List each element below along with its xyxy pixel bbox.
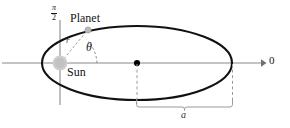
semi-major-axis-label: a xyxy=(181,110,186,120)
orbit-diagram: π 2 Planet Sun θ r 0 a xyxy=(0,0,290,128)
sun-core-icon xyxy=(55,58,65,68)
angle-zero-label: 0 xyxy=(269,55,275,66)
sun-label: Sun xyxy=(67,66,86,78)
planet-dot-icon xyxy=(85,27,91,33)
arrow-right-icon xyxy=(261,59,267,67)
half-pi-label: π 2 xyxy=(51,4,57,23)
half-pi-denominator: 2 xyxy=(51,14,57,22)
planet-label: Planet xyxy=(70,12,100,24)
diagram-canvas xyxy=(0,0,290,128)
half-pi-numerator: π xyxy=(51,4,57,12)
radius-label: r xyxy=(66,36,70,45)
theta-label: θ xyxy=(86,41,92,53)
